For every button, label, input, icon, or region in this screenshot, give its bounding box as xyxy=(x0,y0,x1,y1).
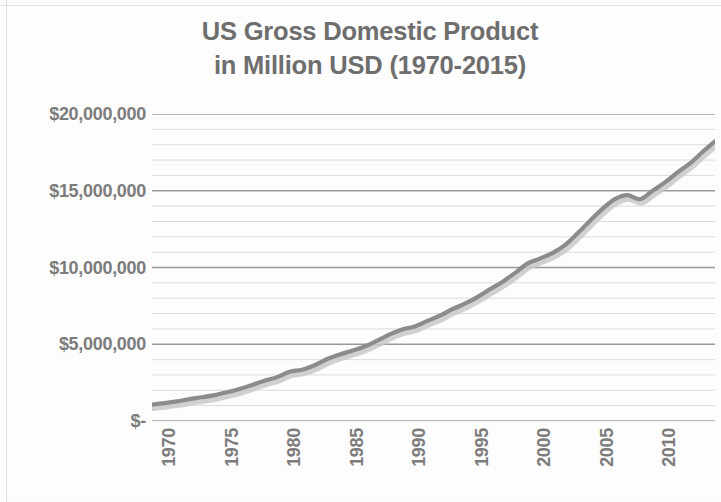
x-axis-tick-label: 1995 xyxy=(472,428,493,467)
gdp-line-shadow xyxy=(154,144,716,407)
x-axis-tick-label: 2005 xyxy=(597,428,618,467)
y-axis-tick-label: $5,000,000 xyxy=(6,334,146,355)
y-axis-tick-label: $- xyxy=(6,411,146,432)
y-axis: $20,000,000$15,000,000$10,000,000$5,000,… xyxy=(0,0,146,502)
gdp-line-chart-svg xyxy=(152,114,715,421)
gdp-line-series xyxy=(152,141,715,404)
x-axis-tick-label: 1975 xyxy=(222,428,243,467)
x-axis-tick-label: 1985 xyxy=(347,428,368,467)
x-axis-tick-label: 1970 xyxy=(159,428,180,467)
chart-screenshot: US Gross Domestic Product in Million USD… xyxy=(0,0,721,502)
x-axis-tick-label: 2000 xyxy=(534,428,555,467)
y-axis-tick-label: $10,000,000 xyxy=(6,257,146,278)
chart-title: US Gross Domestic Product in Million USD… xyxy=(140,14,600,82)
x-axis-tick-label: 1980 xyxy=(284,428,305,467)
y-axis-tick-label: $15,000,000 xyxy=(6,180,146,201)
x-axis: 1970197519801985199019952000200520102015 xyxy=(152,428,715,502)
plot-area xyxy=(152,114,715,421)
x-axis-tick-label: 2010 xyxy=(659,428,680,467)
y-axis-tick-label: $20,000,000 xyxy=(6,104,146,125)
x-axis-tick-label: 1990 xyxy=(409,428,430,467)
